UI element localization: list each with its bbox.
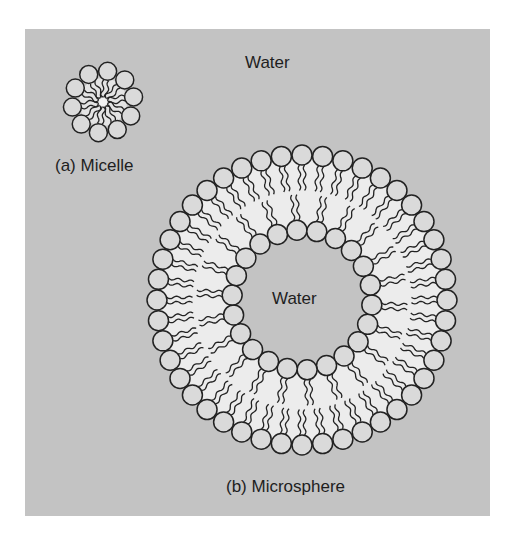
- outer-head: [197, 400, 217, 420]
- outer-head: [431, 331, 451, 351]
- outer-head: [352, 422, 372, 442]
- outer-head: [147, 290, 167, 310]
- outer-head: [214, 412, 234, 432]
- inner-head: [222, 285, 242, 305]
- inner-head: [297, 360, 317, 380]
- outer-head: [436, 269, 456, 289]
- outer-head: [414, 212, 434, 232]
- outer-head: [387, 180, 407, 200]
- outer-head: [313, 434, 333, 454]
- inner-head: [277, 358, 297, 378]
- outer-head: [313, 146, 333, 166]
- outer-head: [424, 350, 444, 370]
- outer-head: [170, 368, 190, 388]
- micelle-head: [89, 124, 107, 142]
- outer-head: [352, 158, 372, 178]
- micelle-head: [99, 62, 117, 80]
- inner-head: [287, 220, 307, 240]
- inner-head: [317, 356, 337, 376]
- micelle-head: [80, 65, 98, 83]
- micelle-head: [66, 79, 84, 97]
- outer-head: [292, 435, 312, 455]
- outer-head: [170, 212, 190, 232]
- outer-head: [436, 311, 456, 331]
- outer-head: [153, 249, 173, 269]
- inner-head: [250, 234, 270, 254]
- microsphere-caption: (b) Microsphere: [226, 477, 345, 497]
- outer-head: [182, 385, 202, 405]
- inner-head: [353, 256, 373, 276]
- inner-head: [231, 324, 251, 344]
- outer-head: [232, 158, 252, 178]
- outer-head: [160, 230, 180, 250]
- outer-head: [148, 311, 168, 331]
- inner-head: [307, 222, 327, 242]
- inner-head: [224, 305, 244, 325]
- inner-head: [362, 295, 382, 315]
- outer-head: [370, 412, 390, 432]
- micelle-head: [108, 121, 126, 139]
- outer-head: [182, 195, 202, 215]
- outer-water-label: Water: [245, 53, 290, 73]
- inner-head: [267, 224, 287, 244]
- outer-head: [148, 269, 168, 289]
- outer-head: [214, 168, 234, 188]
- micelle-head: [72, 115, 90, 133]
- outer-head: [232, 422, 252, 442]
- outer-head: [402, 385, 422, 405]
- outer-head: [387, 400, 407, 420]
- outer-head: [251, 151, 271, 171]
- micelle-head: [122, 107, 140, 125]
- outer-head: [160, 350, 180, 370]
- amphiphile-diagram: [0, 0, 511, 537]
- outer-head: [271, 146, 291, 166]
- outer-head: [251, 429, 271, 449]
- outer-head: [153, 331, 173, 351]
- outer-head: [402, 195, 422, 215]
- micelle-head: [125, 88, 143, 106]
- outer-head: [271, 434, 291, 454]
- outer-head: [370, 168, 390, 188]
- outer-head: [197, 180, 217, 200]
- inner-head: [358, 314, 378, 334]
- outer-head: [292, 145, 312, 165]
- outer-head: [424, 230, 444, 250]
- micelle-head: [63, 98, 81, 116]
- micelle-structure: [63, 62, 142, 141]
- outer-head: [437, 290, 457, 310]
- micelle-caption: (a) Micelle: [55, 156, 133, 176]
- outer-head: [414, 368, 434, 388]
- outer-head: [431, 249, 451, 269]
- inner-head: [226, 266, 246, 286]
- inner-head: [360, 275, 380, 295]
- outer-head: [333, 151, 353, 171]
- inner-head: [334, 346, 354, 366]
- micelle-head: [116, 71, 134, 89]
- inner-water-label: Water: [272, 289, 317, 309]
- outer-head: [333, 429, 353, 449]
